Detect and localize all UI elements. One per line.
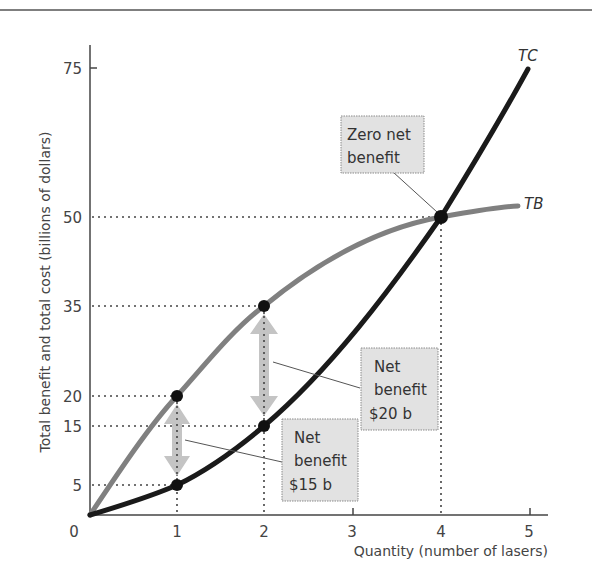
origin-label: 0 (69, 523, 79, 541)
y-tick-label-35: 35 (63, 298, 82, 316)
callout-zero-line2: benefit (347, 149, 400, 167)
point-tb-1 (171, 390, 183, 402)
tb-label: TB (524, 195, 543, 213)
x-tick-label-3: 3 (347, 523, 357, 541)
y-tick-label-20: 20 (63, 388, 82, 406)
callout-net15-line1: Net (294, 429, 320, 447)
y-tick-label-15: 15 (63, 418, 82, 436)
y-tick-label-75: 75 (63, 60, 82, 78)
leader-net20 (273, 362, 360, 388)
callout-net20: Net benefit $20 b (361, 348, 438, 430)
point-tb-2 (258, 300, 270, 312)
leader-net15 (185, 440, 282, 462)
callout-net15-line2: benefit (294, 452, 347, 470)
x-tick-label-5: 5 (524, 523, 534, 541)
x-tick-label-1: 1 (172, 523, 182, 541)
x-axis-title: Quantity (number of lasers) (354, 543, 548, 559)
y-axis-title: Total benefit and total cost (billions o… (37, 132, 53, 454)
callout-net15-line3: $15 b (289, 476, 332, 494)
leader-zero (393, 172, 437, 212)
y-tick-labels: 75 50 35 20 15 5 (63, 60, 82, 495)
callout-net20-line2: benefit (374, 381, 427, 399)
callout-zero-line1: Zero net (347, 126, 411, 144)
x-tick-label-2: 2 (259, 523, 269, 541)
callout-net20-line1: Net (374, 358, 400, 376)
chart-canvas: Net benefit $15 b Net benefit $20 b Zero… (0, 0, 592, 581)
tc-label: TC (518, 47, 538, 65)
callout-net20-line3: $20 b (369, 405, 412, 423)
point-tc-1 (171, 479, 183, 491)
callout-net15: Net benefit $15 b (282, 419, 358, 501)
x-tick-labels: 0 1 2 3 4 5 (69, 523, 534, 541)
y-tick-label-5: 5 (72, 477, 82, 495)
x-tick-label-4: 4 (436, 523, 446, 541)
y-tick-label-50: 50 (63, 209, 82, 227)
point-intersection (434, 210, 448, 224)
callout-zero: Zero net benefit (341, 116, 424, 173)
point-tc-2 (258, 420, 270, 432)
